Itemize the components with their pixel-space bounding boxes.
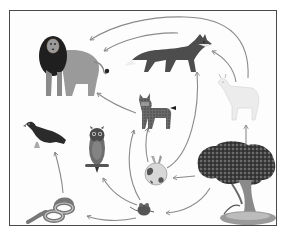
arrow-lynx-to-lion bbox=[97, 93, 136, 113]
food-web-diagram bbox=[0, 0, 287, 240]
arrow-mouse-to-snake bbox=[87, 216, 136, 220]
arrow-goat-to-fox bbox=[212, 51, 236, 82]
rabbit-illustration bbox=[145, 155, 167, 185]
arrow-mouse-to-lynx bbox=[129, 130, 140, 200]
arrow-rabbit-to-lynx bbox=[146, 128, 148, 162]
mouse-illustration bbox=[130, 203, 154, 216]
arrow-tree-to-mouse bbox=[166, 188, 210, 213]
fox-illustration bbox=[124, 34, 212, 72]
tree-illustration bbox=[198, 141, 276, 225]
arrow-snake-to-eagle bbox=[55, 152, 63, 193]
goat-illustration bbox=[218, 74, 259, 120]
owl-illustration bbox=[85, 126, 109, 173]
lynx-illustration bbox=[139, 93, 176, 129]
arrow-tree-to-rabbit bbox=[173, 176, 195, 178]
arrow-fox-to-lion bbox=[104, 33, 178, 51]
lion-illustration bbox=[39, 36, 109, 96]
arrow-rabbit-to-fox bbox=[167, 72, 198, 168]
eagle-illustration bbox=[23, 122, 66, 148]
